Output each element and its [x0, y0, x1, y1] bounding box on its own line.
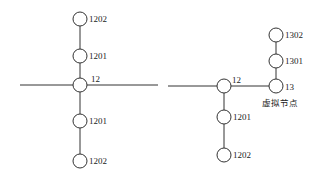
- node-1201-top: [73, 49, 87, 63]
- left-edges: [20, 26, 158, 154]
- label-1301: 1301: [285, 56, 303, 66]
- node-13-virtual: [269, 79, 283, 93]
- right-nodes: [217, 28, 283, 162]
- label-1201-top: 1201: [89, 51, 107, 61]
- label-1202-top: 1202: [89, 14, 107, 24]
- label-1302: 1302: [285, 30, 303, 40]
- node-1201-bot: [73, 114, 87, 128]
- node-1301: [269, 54, 283, 68]
- node-12: [73, 78, 87, 92]
- label-12-right: 12: [232, 75, 241, 85]
- node-1202-top: [73, 12, 87, 26]
- node-1202-right: [217, 148, 231, 162]
- node-12-right: [217, 79, 231, 93]
- right-edges: [168, 42, 276, 148]
- label-1201-bot: 1201: [89, 116, 107, 126]
- label-1201-right: 1201: [233, 112, 251, 122]
- label-1202-bot: 1202: [89, 156, 107, 166]
- label-1202-right: 1202: [233, 150, 251, 160]
- node-1201-right: [217, 110, 231, 124]
- label-12: 12: [91, 74, 100, 84]
- node-1202-bot: [73, 154, 87, 168]
- diagram-canvas: 1202 1201 12 1201 1202 12 13 1301 1302 1…: [0, 0, 320, 179]
- node-1302: [269, 28, 283, 42]
- network-diagram: 1202 1201 12 1201 1202 12 13 1301 1302 1…: [0, 0, 320, 179]
- virtual-node-label: 虚拟节点: [262, 98, 298, 108]
- label-13: 13: [285, 82, 295, 92]
